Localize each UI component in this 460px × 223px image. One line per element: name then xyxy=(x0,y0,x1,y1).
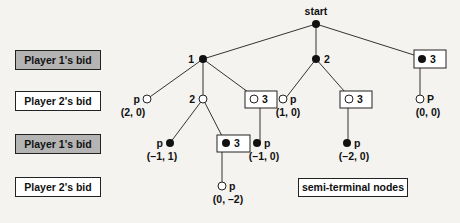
root-node xyxy=(312,20,320,28)
node-1-2 xyxy=(199,95,207,103)
node-1-3-p-label: p xyxy=(264,137,270,149)
node-1 xyxy=(199,55,207,63)
node-2-3-label: 3 xyxy=(357,93,363,105)
node-2-3-p-label: p xyxy=(354,137,360,149)
node-1-2-p-label: p xyxy=(157,137,163,149)
node-1-2-3-p xyxy=(218,182,226,190)
node-1-2-label: 2 xyxy=(189,93,195,105)
node-2 xyxy=(312,55,320,63)
payoff-0-m2: (0, –2) xyxy=(213,193,243,205)
node-3-p xyxy=(416,95,424,103)
node-2-3-p xyxy=(343,139,351,147)
payoff-m1-1: (–1, 1) xyxy=(147,150,177,162)
node-2-label: 2 xyxy=(324,53,330,65)
tree-edges xyxy=(147,24,420,186)
node-1-2-3-p-label: p xyxy=(229,180,235,192)
node-3-p-label: P xyxy=(427,93,434,105)
node-2-3 xyxy=(345,95,353,103)
root-label: start xyxy=(305,5,328,17)
node-1-2-p xyxy=(166,139,174,147)
node-2-p xyxy=(279,95,287,103)
payoff-1-0: (1, 0) xyxy=(276,106,301,118)
payoff-0-0: (0, 0) xyxy=(416,106,441,118)
node-1-2-3 xyxy=(222,139,230,147)
node-3 xyxy=(418,55,426,63)
node-1-p-label: p xyxy=(134,93,140,105)
node-1-label: 1 xyxy=(188,53,194,65)
payoff-2-0: (2, 0) xyxy=(121,106,146,118)
semi-terminal-nodes-label: semi-terminal nodes xyxy=(298,178,408,197)
node-2-p-label: p xyxy=(290,93,296,105)
node-1-p xyxy=(143,95,151,103)
node-1-3 xyxy=(250,95,258,103)
node-3-label: 3 xyxy=(430,53,436,65)
node-1-3-label: 3 xyxy=(262,93,268,105)
node-1-2-3-label: 3 xyxy=(234,137,240,149)
payoff-m2-0: (–2, 0) xyxy=(339,150,369,162)
payoff-m1-0: (–1, 0) xyxy=(249,150,279,162)
node-1-3-p xyxy=(253,139,261,147)
